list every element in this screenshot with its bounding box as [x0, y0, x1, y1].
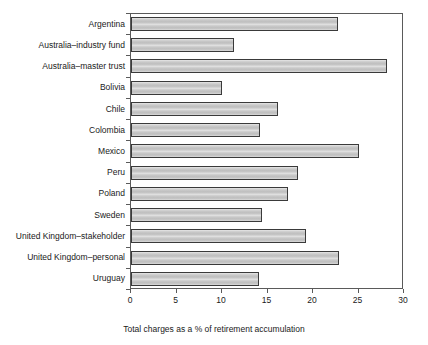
x-axis-tick-label: 30	[388, 295, 418, 305]
bar-row	[131, 184, 402, 205]
category-label: Peru	[0, 167, 125, 177]
bar	[131, 166, 298, 180]
bar-row	[131, 269, 402, 290]
category-label: Mexico	[0, 146, 125, 156]
x-axis-tick	[403, 289, 404, 293]
x-axis-tick	[176, 289, 177, 293]
bar	[131, 59, 387, 73]
bar-row	[131, 120, 402, 141]
bar	[131, 38, 234, 52]
plot-area	[130, 13, 403, 289]
bar-row	[131, 248, 402, 269]
bar	[131, 229, 306, 243]
bar-row	[131, 163, 402, 184]
x-axis-tick	[221, 289, 222, 293]
bar-row	[131, 226, 402, 247]
bar	[131, 81, 222, 95]
category-label: Bolivia	[0, 82, 125, 92]
bar-row	[131, 205, 402, 226]
bar-chart-figure: ArgentinaAustralia–industry fundAustrali…	[0, 0, 428, 345]
bar-row	[131, 56, 402, 77]
x-axis-tick	[130, 289, 131, 293]
bar	[131, 144, 359, 158]
x-axis-tick-label: 25	[343, 295, 373, 305]
x-axis-tick-label: 20	[297, 295, 327, 305]
x-axis-tick-label: 0	[115, 295, 145, 305]
bars-layer	[131, 14, 402, 288]
bar-row	[131, 99, 402, 120]
category-label: Colombia	[0, 125, 125, 135]
bar	[131, 17, 338, 31]
x-axis-tick-label: 15	[252, 295, 282, 305]
category-label: Chile	[0, 104, 125, 114]
category-label: Australia–master trust	[0, 61, 125, 71]
bar-row	[131, 141, 402, 162]
bar	[131, 251, 339, 265]
bar	[131, 208, 262, 222]
category-label: Uruguay	[0, 273, 125, 283]
category-label: Sweden	[0, 210, 125, 220]
x-axis-tick-label: 10	[206, 295, 236, 305]
bar	[131, 123, 260, 137]
x-axis-tick	[312, 289, 313, 293]
bar-row	[131, 35, 402, 56]
x-axis-tick	[358, 289, 359, 293]
x-axis-tick	[267, 289, 268, 293]
bar	[131, 272, 259, 286]
x-axis-title: Total charges as a % of retirement accum…	[0, 324, 428, 335]
bar	[131, 187, 288, 201]
bar-row	[131, 78, 402, 99]
bar-row	[131, 14, 402, 35]
category-label: United Kingdom–stakeholder	[0, 231, 125, 241]
bar	[131, 102, 278, 116]
category-label: United Kingdom–personal	[0, 252, 125, 262]
x-axis-tick-label: 5	[161, 295, 191, 305]
category-label: Poland	[0, 188, 125, 198]
category-label: Argentina	[0, 19, 125, 29]
category-label: Australia–industry fund	[0, 40, 125, 50]
